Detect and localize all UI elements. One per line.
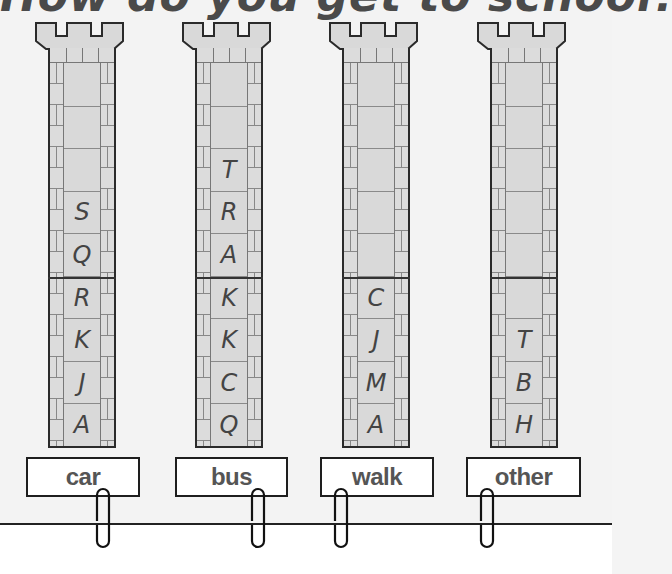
tally-cell bbox=[506, 233, 542, 276]
divider-line bbox=[48, 277, 116, 279]
divider-line bbox=[195, 277, 263, 279]
tally-cell: Q bbox=[64, 233, 100, 276]
tally-cell bbox=[64, 148, 100, 191]
battlement-icon bbox=[182, 22, 272, 50]
paperclip-icon bbox=[248, 485, 268, 555]
tally-cell bbox=[358, 191, 394, 234]
tally-cell: S bbox=[64, 191, 100, 234]
battlement-icon bbox=[35, 22, 125, 50]
letter-column: Q C K K A R T bbox=[211, 63, 247, 446]
tally-cell bbox=[211, 106, 247, 149]
tally-cell: K bbox=[211, 318, 247, 361]
tally-cell bbox=[64, 63, 100, 106]
tower-bus: Q C K K A R T bbox=[182, 22, 272, 448]
page-title: How do you get to school? bbox=[0, 0, 612, 21]
label-bus: bus bbox=[175, 457, 288, 497]
page-below bbox=[0, 525, 612, 574]
battlement-icon bbox=[477, 22, 567, 50]
tally-cell: A bbox=[64, 403, 100, 446]
tower-other: H B T bbox=[477, 22, 567, 448]
tally-cell: A bbox=[211, 233, 247, 276]
letter-column: A J K R Q S bbox=[64, 63, 100, 446]
tally-cell: K bbox=[64, 318, 100, 361]
paperclip-icon bbox=[93, 485, 113, 555]
tally-cell bbox=[358, 148, 394, 191]
tally-cell bbox=[506, 276, 542, 319]
tally-cell bbox=[506, 191, 542, 234]
tally-cell bbox=[211, 63, 247, 106]
tally-cell: M bbox=[358, 361, 394, 404]
tally-cell: B bbox=[506, 361, 542, 404]
divider-line bbox=[490, 277, 558, 279]
tally-cell bbox=[358, 63, 394, 106]
battlement-icon bbox=[329, 22, 419, 50]
tower-walk: A M J C bbox=[329, 22, 419, 448]
tally-cell bbox=[506, 148, 542, 191]
paperclip-icon bbox=[477, 485, 497, 555]
horizontal-rule bbox=[0, 523, 612, 525]
tally-cell bbox=[506, 106, 542, 149]
tally-cell: A bbox=[358, 403, 394, 446]
tally-cell: Q bbox=[211, 403, 247, 446]
letter-column: H B T bbox=[506, 63, 542, 446]
tally-cell: H bbox=[506, 403, 542, 446]
tally-cell: J bbox=[358, 318, 394, 361]
letter-column: A M J C bbox=[358, 63, 394, 446]
tally-cell bbox=[64, 106, 100, 149]
tally-cell: K bbox=[211, 276, 247, 319]
tally-cell: T bbox=[506, 318, 542, 361]
tally-cell: C bbox=[358, 276, 394, 319]
tally-cell: J bbox=[64, 361, 100, 404]
tally-cell bbox=[358, 106, 394, 149]
tally-cell bbox=[506, 63, 542, 106]
tally-cell: R bbox=[64, 276, 100, 319]
divider-line bbox=[342, 277, 410, 279]
tally-cell bbox=[358, 233, 394, 276]
tower-car: A J K R Q S bbox=[35, 22, 125, 448]
label-car: car bbox=[26, 457, 140, 497]
tally-cell: R bbox=[211, 191, 247, 234]
tally-cell: C bbox=[211, 361, 247, 404]
paperclip-icon bbox=[331, 485, 351, 555]
tally-cell: T bbox=[211, 148, 247, 191]
